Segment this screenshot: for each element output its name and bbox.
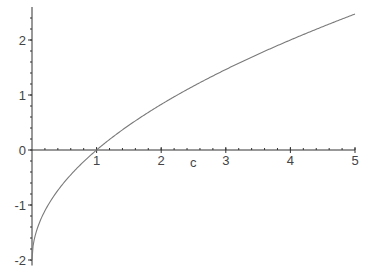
x-tick-label: 3	[222, 153, 229, 168]
x-axis-label: c	[190, 155, 197, 170]
x-tick-label: 5	[351, 153, 358, 168]
y-tick-label: 1	[19, 88, 26, 103]
x-tick-label: 2	[158, 153, 165, 168]
y-axis: 210-1-2	[14, 7, 32, 268]
y-tick-label: -2	[14, 253, 26, 268]
chart-plot: 210-1-2 12345 c	[0, 0, 373, 274]
y-tick-label: -1	[14, 198, 26, 213]
x-tick-label: 4	[287, 153, 294, 168]
curve-line	[32, 14, 355, 260]
x-tick-label: 1	[93, 153, 100, 168]
y-tick-label: 2	[19, 33, 26, 48]
y-tick-label: 0	[19, 143, 26, 158]
plot-series	[32, 14, 355, 260]
